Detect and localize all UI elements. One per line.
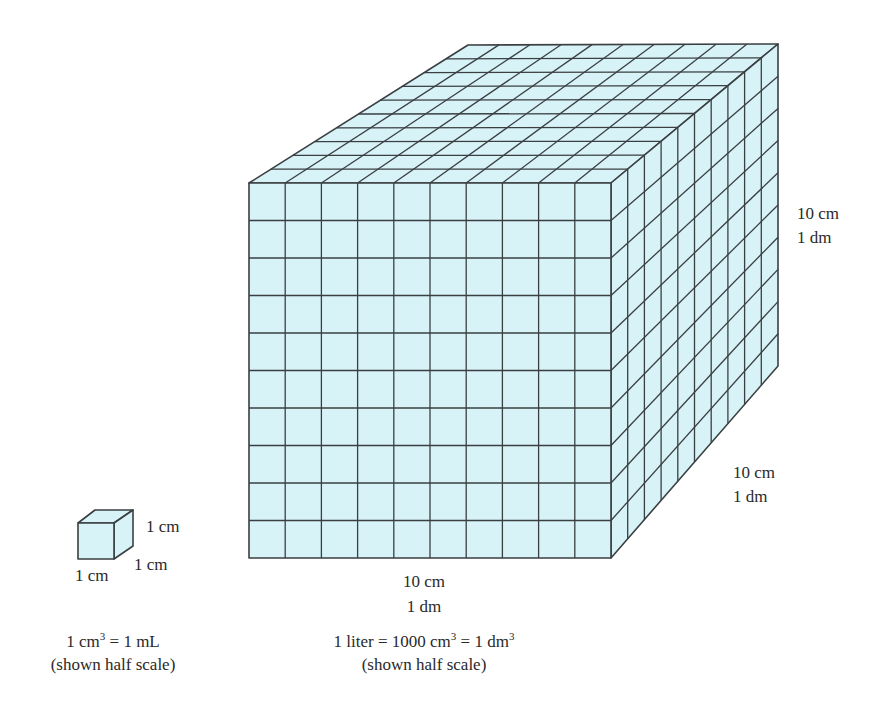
grid-line (446, 58, 761, 59)
small-cube-caption-suffix: = 1 mL (105, 632, 159, 651)
small-cube-scale-note: (shown half scale) (51, 655, 176, 675)
large-cube-liter (249, 44, 778, 558)
grid-line (359, 114, 695, 115)
small-cube-cm3 (78, 510, 133, 559)
large-cube-height-dm-label: 1 dm (797, 228, 831, 248)
small-cube-height-label: 1 cm (146, 517, 180, 537)
cube-diagram (0, 0, 892, 715)
small-cube-caption-prefix: 1 cm (66, 632, 100, 651)
large-cube-width-cm-label: 10 cm (403, 572, 445, 592)
large-cube-volume-caption: 1 liter = 1000 cm3 = 1 dm3 (334, 632, 515, 652)
grid-line (424, 72, 744, 73)
large-cube-width-dm-label: 1 dm (407, 597, 441, 617)
small-cube-volume-caption: 1 cm3 = 1 mL (66, 632, 159, 652)
grid-line (402, 86, 728, 87)
large-cube-scale-note: (shown half scale) (362, 655, 487, 675)
front-face (78, 523, 114, 559)
small-cube-depth-label: 1 cm (134, 555, 168, 575)
large-cube-caption-exponent-2: 3 (509, 630, 515, 642)
large-cube-caption-prefix: 1 liter = 1000 cm (334, 632, 451, 651)
large-cube-depth-dm-label: 1 dm (733, 487, 767, 507)
large-cube-height-cm-label: 10 cm (797, 204, 839, 224)
small-cube-width-label: 1 cm (75, 566, 109, 586)
large-cube-caption-middle: = 1 dm (456, 632, 509, 651)
large-cube-depth-cm-label: 10 cm (733, 463, 775, 483)
grid-line (380, 100, 711, 101)
